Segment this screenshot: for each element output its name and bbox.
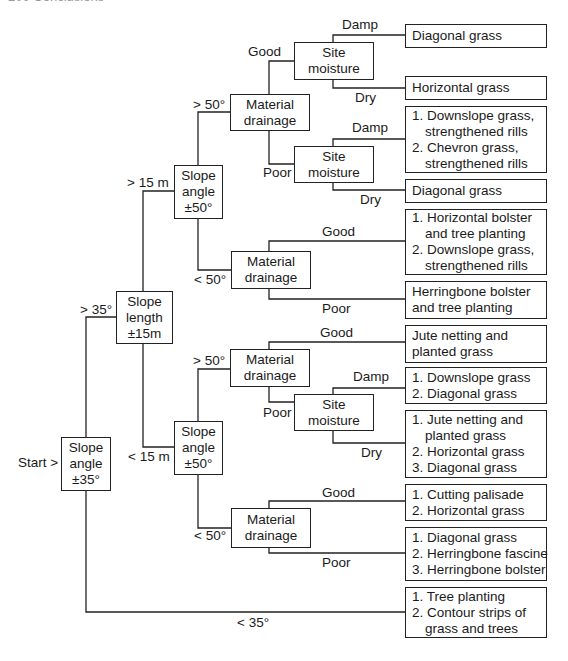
node-text: Slope xyxy=(181,424,216,440)
result-text: grass and trees xyxy=(412,621,518,637)
node-text: Material xyxy=(247,512,295,528)
edge-label-lt50-upper: < 50° xyxy=(194,272,226,288)
edge-label-lt15m: < 15 m xyxy=(128,449,170,465)
node-material-drainage-3: Material drainage xyxy=(230,349,310,387)
node-material-drainage-1: Material drainage xyxy=(230,94,310,131)
edge-label-poor-3: Poor xyxy=(263,405,292,421)
node-site-moisture-3: Site moisture xyxy=(294,394,374,431)
result-text: planted grass xyxy=(412,344,493,360)
result-text: 2. Horizontal grass xyxy=(412,444,525,460)
node-text: Slope xyxy=(69,440,104,456)
node-material-drainage-4: Material drainage xyxy=(231,508,311,548)
node-text: moisture xyxy=(308,413,360,429)
result-text: 1. Downslope grass, xyxy=(412,108,534,124)
result-text: 1. Downslope grass xyxy=(412,370,531,386)
node-slope-length-15: Slope length ±15m xyxy=(116,291,173,344)
edge-label-gt50-lower: > 50° xyxy=(193,353,225,369)
edge-label-damp-1: Damp xyxy=(342,17,378,33)
result-text: 1. Cutting palisade xyxy=(412,487,524,503)
node-slope-angle-35: Slope angle ±35° xyxy=(61,437,111,491)
node-text: Slope xyxy=(181,168,216,184)
node-site-moisture-2: Site moisture xyxy=(294,146,374,183)
node-text: ±35° xyxy=(72,472,100,488)
result-box-2: Horizontal grass xyxy=(405,76,547,100)
node-text: drainage xyxy=(245,528,298,544)
edge-label-dry-3: Dry xyxy=(361,445,382,461)
node-text: angle xyxy=(182,440,215,456)
edge-label-poor-1: Poor xyxy=(263,165,292,181)
result-text: 2. Herringbone fascine xyxy=(412,546,548,562)
node-slope-angle-50-lower: Slope angle ±50° xyxy=(174,421,223,475)
node-text: ±15m xyxy=(128,326,162,342)
edge-label-good-2: Good xyxy=(322,224,355,240)
result-text: planted grass xyxy=(412,428,506,444)
result-text: 3. Diagonal grass xyxy=(412,460,517,476)
node-text: angle xyxy=(69,456,102,472)
node-text: ±50° xyxy=(185,456,213,472)
edge-label-good-1: Good xyxy=(248,44,281,60)
node-text: ±50° xyxy=(185,200,213,216)
result-text: strengthened rills xyxy=(412,124,528,140)
result-text: Herringbone bolster xyxy=(412,284,531,300)
node-text: drainage xyxy=(244,368,297,384)
node-text: drainage xyxy=(244,113,297,129)
node-text: moisture xyxy=(308,165,360,181)
node-text: Material xyxy=(247,254,295,270)
result-text: and tree planting xyxy=(412,226,526,242)
result-box-9: 1. Jute netting and planted grass 2. Hor… xyxy=(405,410,547,478)
result-box-8: 1. Downslope grass 2. Diagonal grass xyxy=(405,367,547,404)
result-box-11: 1. Diagonal grass 2. Herringbone fascine… xyxy=(405,527,547,581)
result-box-4: Diagonal grass xyxy=(405,179,547,203)
result-text: 2. Contour strips of xyxy=(412,605,526,621)
result-box-7: Jute netting and planted grass xyxy=(405,325,547,363)
result-text: 2. Horizontal grass xyxy=(412,503,525,519)
edge-label-poor-4: Poor xyxy=(322,555,351,571)
result-box-6: Herringbone bolster and tree planting xyxy=(405,281,547,319)
node-text: Site xyxy=(322,45,345,61)
edge-label-lt35: < 35° xyxy=(237,615,269,631)
result-box-10: 1. Cutting palisade 2. Horizontal grass xyxy=(405,484,547,521)
node-text: drainage xyxy=(245,270,298,286)
result-text: 1. Tree planting xyxy=(412,589,505,605)
node-text: Material xyxy=(246,352,294,368)
result-text: Diagonal grass xyxy=(412,28,502,44)
edge-label-damp-3: Damp xyxy=(353,369,389,385)
start-label: Start > xyxy=(18,455,58,471)
edge-label-lt50-lower: < 50° xyxy=(194,528,226,544)
edge-label-dry-2: Dry xyxy=(360,192,381,208)
result-text: and tree planting xyxy=(412,300,513,316)
node-text: Material xyxy=(246,97,294,113)
result-text: Diagonal grass xyxy=(412,183,502,199)
edge-label-good-3: Good xyxy=(320,325,353,341)
node-material-drainage-2: Material drainage xyxy=(231,251,311,289)
node-text: Slope xyxy=(127,294,162,310)
node-text: length xyxy=(126,310,163,326)
edge-label-gt35: > 35° xyxy=(80,302,112,318)
edge-label-gt15m: > 15 m xyxy=(127,175,169,191)
result-text: 2. Downslope grass, xyxy=(412,242,534,258)
decision-tree-diagram: 200 Conclusions xyxy=(0,0,568,661)
result-text: 2. Diagonal grass xyxy=(412,386,517,402)
edge-label-poor-2: Poor xyxy=(322,301,351,317)
node-text: moisture xyxy=(308,61,360,77)
result-box-12: 1. Tree planting 2. Contour strips of gr… xyxy=(405,587,547,638)
node-text: Site xyxy=(322,397,345,413)
edge-label-dry-1: Dry xyxy=(355,90,376,106)
edge-label-damp-2: Damp xyxy=(352,120,388,136)
result-text: 1. Diagonal grass xyxy=(412,530,517,546)
result-text: 3. Herringbone bolster xyxy=(412,562,546,578)
edge-label-gt50-upper: > 50° xyxy=(193,97,225,113)
result-box-3: 1. Downslope grass, strengthened rills 2… xyxy=(405,106,547,173)
result-text: strengthened rills xyxy=(412,258,528,274)
result-text: strengthened rills xyxy=(412,156,528,172)
node-text: Site xyxy=(322,149,345,165)
result-box-5: 1. Horizontal bolster and tree planting … xyxy=(405,209,547,275)
result-text: 1. Jute netting and xyxy=(412,412,523,428)
result-text: Horizontal grass xyxy=(412,80,510,96)
node-site-moisture-1: Site moisture xyxy=(294,42,374,80)
result-text: 2. Chevron grass, xyxy=(412,140,519,156)
result-text: 1. Horizontal bolster xyxy=(412,210,532,226)
result-text: Jute netting and xyxy=(412,328,508,344)
result-box-1: Diagonal grass xyxy=(405,24,547,48)
edge-label-good-4: Good xyxy=(322,485,355,501)
